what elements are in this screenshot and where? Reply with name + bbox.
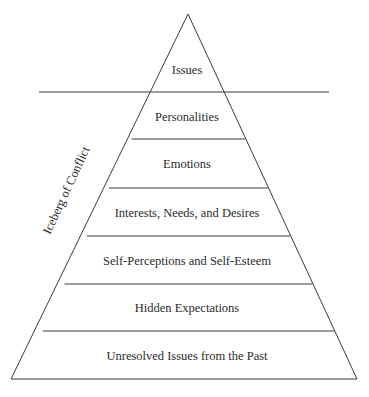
level-label-emotions: Emotions <box>163 157 211 171</box>
level-label-hidden-expectations: Hidden Expectations <box>135 301 240 315</box>
level-label-unresolved-issues: Unresolved Issues from the Past <box>106 349 268 363</box>
iceberg-diagram: Issues Personalities Emotions Interests,… <box>0 0 369 397</box>
level-label-personalities: Personalities <box>155 110 219 124</box>
level-label-interests: Interests, Needs, and Desires <box>115 206 260 220</box>
side-label: Iceberg of Conflict <box>40 144 93 236</box>
level-label-self-perceptions: Self-Perceptions and Self-Esteem <box>103 254 271 268</box>
level-label-issues: Issues <box>172 63 203 77</box>
